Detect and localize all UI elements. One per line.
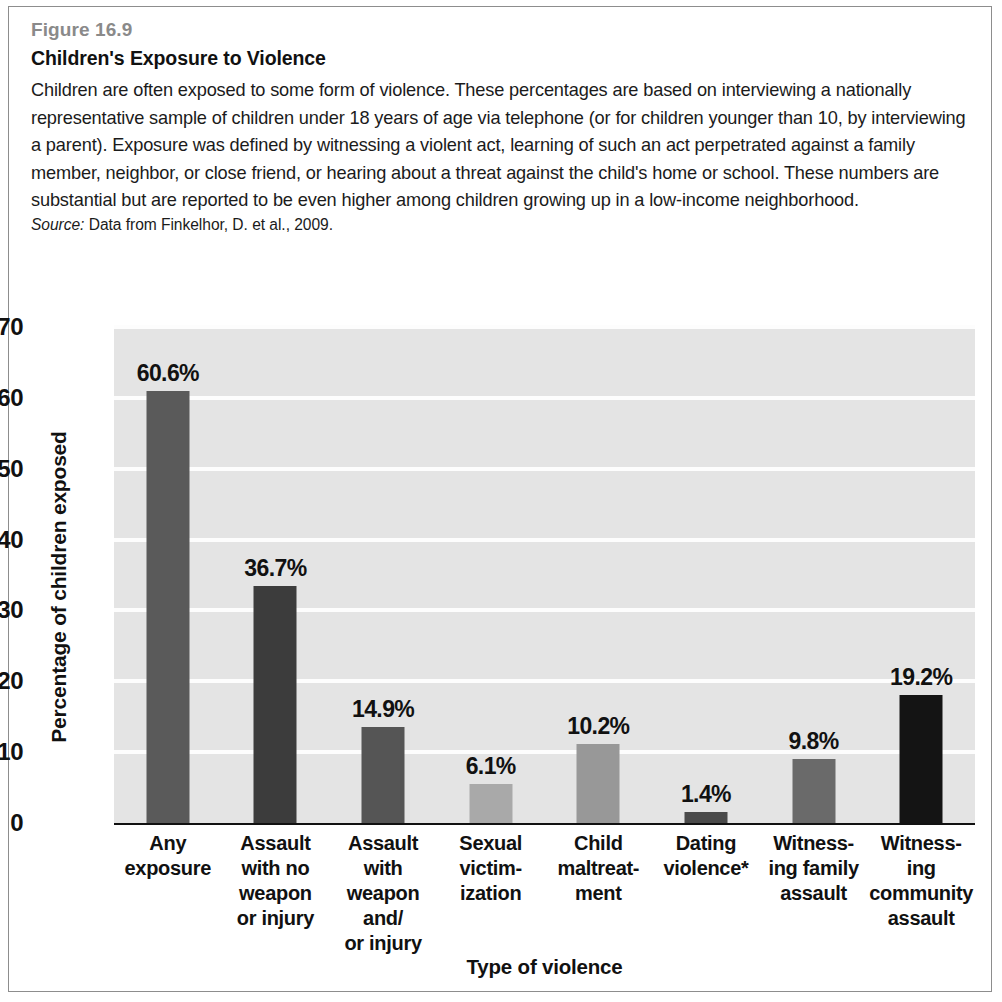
x-axis-category-label: Witness-ing familyassault	[754, 831, 874, 906]
bar[interactable]	[254, 586, 297, 823]
bar[interactable]	[684, 812, 727, 823]
bar[interactable]	[900, 695, 943, 823]
x-axis-category-label-line: Witness-	[754, 831, 874, 856]
figure-caption-text: Children are often exposed to some form …	[31, 77, 973, 215]
bar-slot: 1.4%	[652, 327, 760, 823]
x-axis-category-label-line: exposure	[108, 856, 228, 881]
figure-header: Figure 16.9 Children's Exposure to Viole…	[31, 19, 973, 234]
x-axis-category-label-line: Any	[108, 831, 228, 856]
bar-value-label: 10.2%	[567, 713, 629, 740]
bar[interactable]	[146, 391, 189, 823]
x-axis-title: Type of violence	[114, 955, 975, 979]
x-axis-category-label-line: with no	[216, 856, 336, 881]
x-axis-category-label-line: or injury	[216, 906, 336, 931]
x-axis-category-label-line: ing family	[754, 856, 874, 881]
y-axis-tick-label: 40	[0, 526, 23, 554]
source-label: Source:	[31, 216, 84, 233]
x-axis-category-label-line: with	[323, 856, 443, 881]
x-axis-category-label: Assaultwith noweaponor injury	[216, 831, 336, 931]
x-axis-category-label-line: ment	[539, 881, 659, 906]
x-axis-category-label-line: Assault	[216, 831, 336, 856]
x-axis-category-label-line: weapon	[216, 881, 336, 906]
x-axis-category-label-line: victim-	[431, 856, 551, 881]
bar[interactable]	[577, 744, 620, 823]
figure-box: Figure 16.9 Children's Exposure to Viole…	[8, 6, 992, 992]
source-text: Data from Finkelhor, D. et al., 2009.	[84, 216, 333, 233]
x-axis-category-label-line: Dating	[646, 831, 766, 856]
bar-value-label: 19.2%	[890, 664, 952, 691]
bar[interactable]	[792, 759, 835, 823]
bar-slot: 9.8%	[760, 327, 868, 823]
x-axis-category-label-line: assault	[861, 906, 981, 931]
x-axis-category-label-line: Assault	[323, 831, 443, 856]
figure-source-line: Source: Data from Finkelhor, D. et al., …	[31, 216, 973, 234]
y-axis-title: Percentage of children exposed	[47, 377, 71, 797]
x-axis-category-label-line: assault	[754, 881, 874, 906]
bar-slot: 6.1%	[437, 327, 545, 823]
bar-slot: 19.2%	[867, 327, 975, 823]
x-axis-category-label-line: community	[861, 881, 981, 906]
bar-value-label: 60.6%	[137, 360, 199, 387]
bar-value-label: 6.1%	[466, 753, 516, 780]
bar-slot: 10.2%	[545, 327, 653, 823]
x-axis-category-label-line: weapon	[323, 881, 443, 906]
bar-value-label: 9.8%	[789, 728, 839, 755]
x-axis-category-label-line: ization	[431, 881, 551, 906]
x-axis-category-label: Witness-ingcommunityassault	[861, 831, 981, 931]
x-axis-category-label-line: violence*	[646, 856, 766, 881]
bar-series: 60.6%36.7%14.9%6.1%10.2%1.4%9.8%19.2%	[114, 327, 975, 823]
bar-slot: 36.7%	[222, 327, 330, 823]
figure-number: Figure 16.9	[31, 19, 973, 41]
y-axis-tick-label: 70	[0, 313, 23, 341]
bar[interactable]	[362, 727, 405, 823]
x-axis-category-label-line: ing	[861, 856, 981, 881]
y-axis-tick-label: 20	[0, 667, 23, 695]
x-axis-category-label: Sexualvictim-ization	[431, 831, 551, 906]
y-axis-tick-label: 60	[0, 384, 23, 412]
x-axis-category-label-line: Child	[539, 831, 659, 856]
x-axis-category-label-line: and/	[323, 906, 443, 931]
figure-title: Children's Exposure to Violence	[31, 47, 973, 70]
x-axis-category-label-line: Sexual	[431, 831, 551, 856]
x-axis-category-label: Anyexposure	[108, 831, 228, 881]
x-axis-category-label-line: maltreat-	[539, 856, 659, 881]
y-axis-tick-label: 10	[0, 738, 23, 766]
y-axis-tick-label: 50	[0, 455, 23, 483]
x-axis-category-label-line: or injury	[323, 931, 443, 956]
y-axis-tick-label: 30	[0, 596, 23, 624]
x-axis-category-label: Childmaltreat-ment	[539, 831, 659, 906]
x-axis-line	[114, 823, 975, 825]
bar-value-label: 1.4%	[681, 781, 731, 808]
x-axis-category-label: Datingviolence*	[646, 831, 766, 881]
bar[interactable]	[469, 784, 512, 823]
y-axis-tick-label: 0	[0, 809, 23, 837]
bar-value-label: 36.7%	[244, 555, 306, 582]
bar-chart: 010203040506070 Percentage of children e…	[9, 307, 991, 991]
bar-slot: 60.6%	[114, 327, 222, 823]
x-axis-category-label: Assaultwithweaponand/or injury	[323, 831, 443, 956]
bar-value-label: 14.9%	[352, 696, 414, 723]
x-axis-category-label-line: Witness-	[861, 831, 981, 856]
bar-slot: 14.9%	[329, 327, 437, 823]
